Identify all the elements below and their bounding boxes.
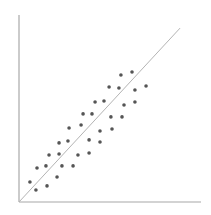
data-point [122,103,126,107]
data-point [93,100,97,104]
data-point [45,184,49,188]
data-point [130,70,134,74]
data-point [79,123,83,127]
data-point [90,112,94,116]
data-point [60,164,64,168]
data-point [47,153,51,157]
trend-line [19,28,180,202]
data-point [35,166,39,170]
data-point [119,73,123,77]
data-point [81,112,85,116]
data-point [55,175,59,179]
data-point [133,88,137,92]
data-point [110,127,114,131]
axes [19,15,201,202]
data-point [98,129,102,133]
data-point [71,164,75,168]
data-point [34,188,38,192]
data-point [76,153,80,157]
scatter-chart [0,0,211,215]
data-point [87,138,91,142]
data-point [117,86,121,90]
data-point [87,151,91,155]
data-point [120,115,124,119]
data-point [66,139,70,143]
data-point [57,141,61,145]
data-point [109,115,113,119]
data-point [98,140,102,144]
data-point [102,99,106,103]
data-point [44,164,48,168]
data-point [67,126,71,130]
data-point [133,100,137,104]
data-point [57,152,61,156]
data-point [28,180,32,184]
data-points [28,70,148,192]
data-point [144,84,148,88]
data-point [107,85,111,89]
